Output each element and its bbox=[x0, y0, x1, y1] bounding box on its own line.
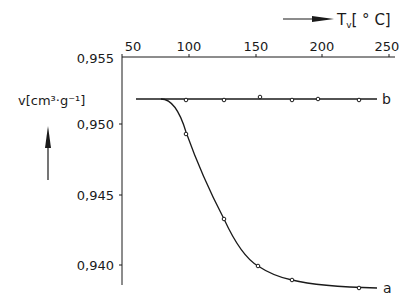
series-a-curve bbox=[161, 99, 377, 288]
x-tick-label: 250 bbox=[375, 39, 400, 54]
x-axis-label: Tv[ ° C] bbox=[336, 11, 391, 30]
y-tick-label: 0,950 bbox=[77, 117, 114, 132]
arrow-head-icon bbox=[312, 16, 334, 22]
arrow-head-icon bbox=[45, 126, 51, 148]
series-a-markers bbox=[184, 132, 361, 290]
x-tick-label: 200 bbox=[310, 39, 335, 54]
y-tick-label: 0,945 bbox=[77, 188, 114, 203]
chart-plot: Tv[ ° C] 50 100 150 200 250 0,955 0,950 … bbox=[0, 0, 409, 300]
x-tick-label: 150 bbox=[244, 39, 269, 54]
series-a-label: a bbox=[383, 280, 392, 296]
y-tick-label: 0,940 bbox=[77, 258, 114, 273]
x-tick-label: 50 bbox=[125, 39, 142, 54]
series-b-label: b bbox=[382, 91, 391, 107]
y-tick-label: 0,955 bbox=[77, 51, 114, 66]
y-axis-label: v[cm³·g⁻¹] bbox=[18, 93, 85, 108]
x-tick-label: 100 bbox=[177, 39, 202, 54]
